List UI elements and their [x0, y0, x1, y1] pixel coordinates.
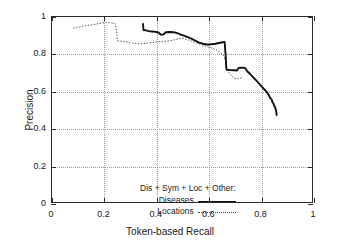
x-axis-tick: [209, 16, 210, 21]
x-axis-tick: [314, 198, 315, 203]
y-axis-tick: [308, 129, 313, 130]
y-axis-tick: [51, 92, 56, 93]
x-axis-title: Token-based Recall: [0, 226, 340, 237]
x-axis-tick: [157, 16, 158, 21]
y-axis-tick-label: 0: [25, 198, 46, 208]
y-axis-tick-label: 0.8: [25, 48, 46, 58]
y-axis-tick: [51, 204, 56, 205]
y-axis-tick: [308, 17, 313, 18]
x-axis-tick: [157, 198, 158, 203]
y-axis-tick-label: 0.4: [25, 123, 46, 133]
x-axis-tick-label: 0.6: [202, 209, 215, 219]
y-axis-tick: [308, 92, 313, 93]
x-axis-tick: [314, 16, 315, 21]
y-axis-tick: [308, 54, 313, 55]
curve-layer: [52, 17, 312, 203]
x-axis-tick-label: 0: [48, 209, 53, 219]
x-axis-tick-label: 0.4: [150, 209, 163, 219]
series-line-locations: [73, 22, 242, 79]
x-axis-tick: [262, 198, 263, 203]
y-axis-tick-label: 0.6: [25, 86, 46, 96]
y-axis-tick: [308, 167, 313, 168]
precision-recall-figure: Dis + Sym + Loc + Other: Diseases Locati…: [0, 0, 340, 248]
legend-label-locations: Locations: [157, 206, 193, 217]
x-axis-tick: [104, 16, 105, 21]
y-axis-tick: [51, 17, 56, 18]
x-axis-tick: [104, 198, 105, 203]
legend-item-diseases: Diseases: [140, 195, 236, 206]
series-line-diseases: [143, 24, 277, 115]
y-axis-tick: [51, 54, 56, 55]
y-axis-tick-label: 1: [25, 11, 46, 21]
x-axis-tick: [52, 198, 53, 203]
y-axis-tick: [308, 204, 313, 205]
legend-swatch-diseases: [198, 197, 236, 205]
legend-label-diseases: Diseases: [159, 195, 194, 206]
x-axis-tick-label: 0.2: [97, 209, 110, 219]
y-axis-tick: [51, 129, 56, 130]
x-axis-tick-label: 0.8: [254, 209, 267, 219]
plot-area: Dis + Sym + Loc + Other: Diseases Locati…: [51, 16, 313, 203]
y-axis-tick: [51, 167, 56, 168]
legend-title: Dis + Sym + Loc + Other:: [140, 183, 236, 194]
x-axis-tick-label: 1: [310, 209, 315, 219]
y-axis-tick-label: 0.2: [25, 161, 46, 171]
x-axis-tick: [209, 198, 210, 203]
x-axis-tick: [262, 16, 263, 21]
